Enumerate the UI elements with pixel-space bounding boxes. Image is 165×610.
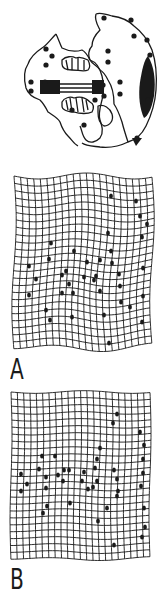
landmark-dot: [111, 420, 115, 425]
landmark-dot: [138, 213, 142, 218]
grid-row-line: [16, 239, 154, 244]
landmark-dot: [80, 478, 84, 483]
landmark-dot: [92, 277, 96, 282]
landmark-dot: [41, 510, 45, 515]
landmark-dot: [138, 429, 142, 434]
landmark-dot: [82, 274, 86, 279]
landmark-dot: [140, 319, 144, 324]
landmark-dot: [109, 248, 113, 253]
grid-row-line: [16, 202, 154, 208]
landmark-dot: [19, 488, 23, 493]
landmark-dot: [101, 93, 106, 98]
grid-col-line: [104, 392, 107, 561]
grid-col-line: [10, 392, 12, 559]
landmark-dot: [134, 198, 138, 203]
landmark-dot: [141, 293, 145, 298]
landmark-dot: [28, 88, 33, 93]
landmark-dot: [56, 472, 60, 477]
landmark-dot: [115, 476, 119, 481]
landmark-dot: [43, 62, 48, 67]
skull-basicranium: [80, 60, 104, 142]
grid-col-line: [102, 175, 108, 351]
landmark-dot: [144, 37, 149, 42]
landmark-dot: [69, 107, 74, 112]
grid-row-line: [16, 209, 154, 215]
landmark-dot: [95, 456, 99, 461]
grid-col-line: [19, 177, 23, 348]
landmark-dot: [47, 256, 51, 261]
grid-row-line: [14, 343, 152, 351]
landmark-dot: [145, 97, 150, 102]
panel-label-a: A: [10, 356, 24, 384]
grid-col-line: [16, 393, 18, 560]
landmark-dot: [67, 281, 71, 286]
grid-row-line: [16, 224, 154, 229]
landmark-dot: [96, 518, 100, 523]
landmark-dot: [44, 474, 48, 479]
landmark-dot: [141, 470, 145, 475]
landmark-dot: [44, 307, 48, 312]
landmark-dot: [102, 312, 106, 317]
deformation-grid-b: [10, 391, 151, 561]
landmark-dot: [107, 340, 111, 345]
landmark-dot: [49, 240, 53, 245]
landmark-dot: [81, 122, 86, 127]
landmark-dot: [118, 283, 122, 288]
landmark-dot: [101, 15, 106, 20]
skull-tooth-detail: [66, 58, 88, 112]
grid-col-line: [96, 174, 102, 352]
landmark-dot: [116, 488, 120, 493]
landmark-dot: [92, 97, 97, 102]
landmark-dot: [53, 453, 57, 458]
landmark-dot: [25, 481, 29, 486]
landmark-dot: [71, 290, 75, 295]
deformation-grid-a: [12, 173, 154, 352]
grid-col-line: [117, 393, 119, 560]
landmark-dot: [95, 478, 99, 483]
landmark-dot: [85, 259, 89, 264]
grid-row-line: [13, 336, 151, 344]
landmark-dot: [72, 248, 76, 253]
grid-col-line: [123, 179, 128, 349]
landmark-dot: [115, 411, 119, 416]
grid-row-line: [16, 232, 154, 237]
landmark-dot: [19, 471, 23, 476]
grid-col-line: [39, 179, 43, 346]
landmark-dot: [42, 79, 47, 84]
landmark-dot: [134, 135, 139, 140]
grid-col-line: [25, 178, 29, 347]
figure-canvas: [0, 0, 165, 610]
grid-col-line: [111, 392, 113, 560]
landmark-dot: [34, 276, 38, 281]
grid-row-line: [16, 217, 154, 222]
skull-inner-arch: [89, 14, 128, 142]
landmark-dot: [131, 33, 136, 38]
landmark-dot: [128, 304, 132, 309]
landmark-dot: [70, 314, 74, 319]
panel-label-b: B: [10, 566, 24, 594]
landmark-dot: [145, 221, 149, 226]
grid-row-line: [14, 173, 152, 179]
landmark-dot: [117, 79, 122, 84]
landmark-dot: [98, 288, 102, 293]
landmark-dot: [37, 466, 41, 471]
landmark-dot: [142, 442, 146, 447]
grid-row-line: [15, 180, 153, 186]
landmark-dot: [40, 453, 44, 458]
landmark-dot: [109, 193, 113, 198]
grid-row-line: [13, 329, 151, 337]
landmark-dot: [44, 485, 48, 490]
landmark-dot: [27, 292, 31, 297]
landmark-dot: [93, 465, 97, 470]
landmark-dot: [98, 445, 102, 450]
landmark-dot: [145, 65, 150, 70]
landmark-dot: [147, 52, 152, 57]
landmark-dot: [28, 79, 33, 84]
landmark-dot: [64, 268, 68, 273]
grid-row-line: [16, 195, 154, 201]
skull-landmarks: [28, 15, 152, 140]
landmark-dot: [143, 524, 147, 529]
landmark-dot: [139, 483, 143, 488]
grid-col-line: [130, 179, 135, 347]
landmark-dot: [61, 478, 65, 483]
